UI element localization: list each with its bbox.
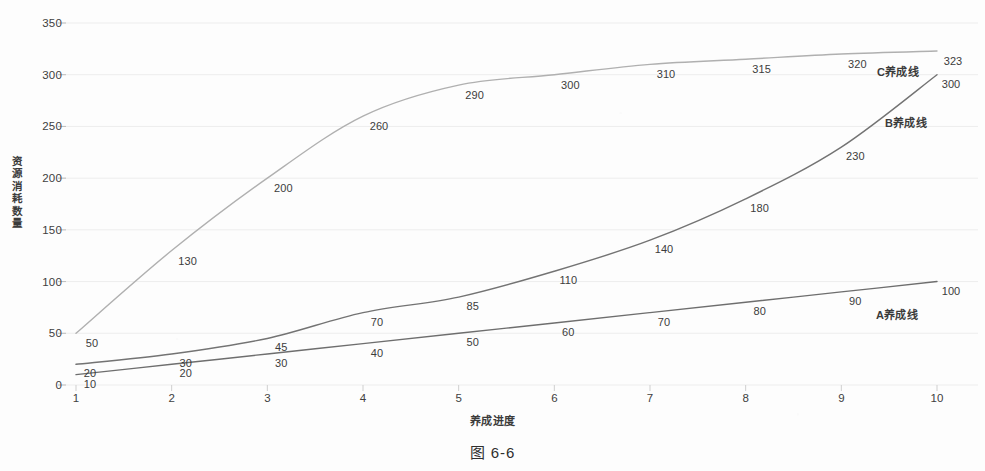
y-tick-label: 200 [42, 172, 62, 184]
data-label: 110 [559, 274, 577, 286]
data-label: 30 [275, 357, 287, 369]
data-label: 200 [274, 182, 293, 194]
y-tick-label: 50 [49, 327, 62, 339]
data-label: 45 [275, 341, 287, 353]
y-axis-title-char: 耗 [9, 192, 25, 204]
data-label: 310 [657, 68, 676, 80]
x-tick-label: 1 [73, 392, 79, 404]
data-label: 90 [849, 295, 861, 307]
series-annotation-A养成线: A养成线 [876, 306, 918, 322]
data-label: 130 [178, 255, 197, 267]
data-label: 50 [466, 336, 478, 348]
x-tick-label: 7 [647, 392, 653, 404]
series-line-3 [76, 51, 937, 333]
data-label: 80 [753, 305, 765, 317]
y-tick-label: 150 [42, 224, 62, 236]
data-label: 20 [84, 367, 96, 379]
series-line-1 [76, 282, 937, 375]
data-label: 60 [562, 326, 574, 338]
data-label: 70 [371, 316, 383, 328]
y-axis-title: 资源消耗数量 [9, 155, 25, 229]
series-annotation-B养成线: B养成线 [885, 114, 927, 130]
x-tick-label: 10 [931, 392, 944, 404]
y-axis-title-char: 消 [9, 180, 25, 192]
line-chart: 050100150200250300350 资源消耗数量 12345678910… [0, 0, 985, 430]
y-tick-label: 250 [42, 120, 62, 132]
data-label: 300 [942, 78, 961, 90]
data-label: 260 [370, 120, 389, 132]
x-tick-label: 8 [742, 392, 748, 404]
y-tick-label: 0 [55, 379, 62, 391]
y-tick-label: 300 [42, 69, 62, 81]
data-label: 85 [466, 300, 478, 312]
data-label: 50 [86, 337, 98, 349]
data-label: 320 [848, 58, 867, 70]
plot-canvas [0, 0, 985, 430]
data-label: 323 [944, 55, 963, 67]
data-label: 230 [846, 150, 865, 162]
data-label: 300 [561, 79, 580, 91]
data-label: 40 [371, 347, 383, 359]
data-label: 20 [179, 367, 191, 379]
series-lines [76, 51, 937, 375]
y-tick-label: 100 [42, 276, 62, 288]
data-label: 180 [750, 202, 769, 214]
y-axis-title-char: 数 [9, 205, 25, 217]
series-line-2 [76, 75, 937, 365]
x-axis-tick-labels: 12345678910 [0, 392, 985, 410]
data-label: 10 [84, 378, 96, 390]
y-tick-label: 350 [42, 17, 62, 29]
x-tick-label: 3 [264, 392, 270, 404]
x-tick-label: 6 [551, 392, 557, 404]
data-label: 30 [179, 357, 191, 369]
figure-caption: 图 6-6 [0, 441, 985, 462]
y-axis-title-char: 资 [9, 155, 25, 167]
x-tick-label: 5 [455, 392, 461, 404]
x-tick-label: 2 [168, 392, 174, 404]
y-axis-title-char: 量 [9, 217, 25, 229]
data-label: 315 [752, 63, 771, 75]
x-tick-label: 9 [838, 392, 844, 404]
data-label: 100 [942, 285, 961, 297]
x-tick-label: 4 [360, 392, 366, 404]
x-axis-title: 养成进度 [0, 412, 985, 428]
axis-lines [58, 23, 937, 391]
series-annotation-C养成线: C养成线 [877, 63, 919, 79]
data-label: 70 [658, 316, 670, 328]
data-label: 140 [655, 243, 674, 255]
data-label: 290 [465, 89, 484, 101]
figure-screenshot: 050100150200250300350 资源消耗数量 12345678910… [0, 0, 985, 471]
y-axis-title-char: 源 [9, 167, 25, 179]
